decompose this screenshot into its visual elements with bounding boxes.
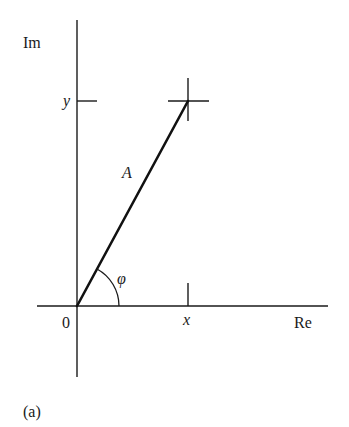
- angle-phi-label: φ: [117, 270, 126, 288]
- real-axis-label: Re: [294, 314, 312, 331]
- panel-label: (a): [23, 403, 41, 421]
- complex-plane-diagram: Im Re 0 y x A φ (a): [0, 0, 349, 427]
- point-cross-marker: [168, 78, 209, 121]
- x-tick-label: x: [182, 311, 190, 328]
- y-tick-label: y: [61, 92, 71, 110]
- angle-arc: [97, 269, 119, 306]
- origin-label: 0: [62, 314, 70, 331]
- imaginary-axis-label: Im: [23, 34, 41, 51]
- vector-magnitude-label: A: [121, 164, 132, 181]
- vector-a: [77, 101, 188, 306]
